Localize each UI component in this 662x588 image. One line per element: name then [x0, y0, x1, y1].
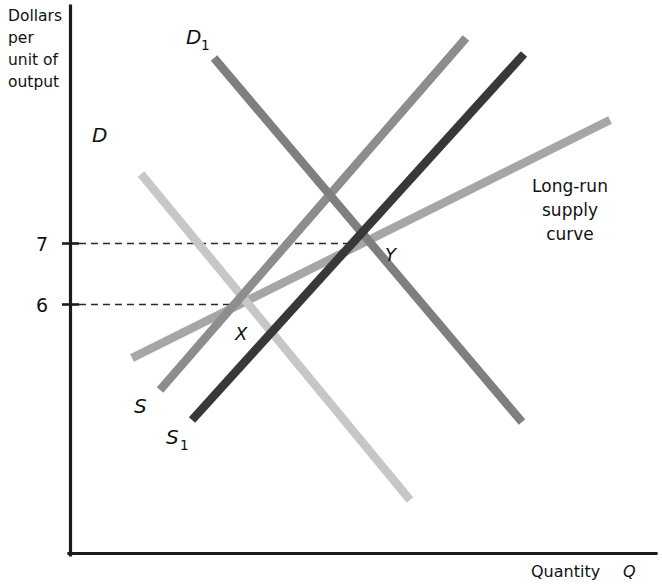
- y-tick-label-6: 6: [36, 294, 48, 316]
- curve-label-s1-subscript: 1: [180, 437, 189, 453]
- point-label-x: X: [234, 323, 248, 344]
- x-axis-title-symbol: Q: [623, 562, 636, 581]
- curve-label-s: S: [134, 394, 147, 418]
- y-axis-caption-line-2: per: [8, 29, 34, 47]
- annotation-line-2: supply: [542, 200, 598, 220]
- curve-label-d1-subscript: 1: [201, 37, 210, 53]
- y-axis-caption-line-4: output: [8, 73, 59, 91]
- curve-label-s1-base: S: [166, 425, 179, 449]
- chart-background: [0, 0, 662, 588]
- supply-demand-chart: Dollars per unit of output 7 6 D D 1 S S…: [0, 0, 662, 588]
- curve-label-d1-base: D: [186, 25, 201, 49]
- y-axis-caption-line-3: unit of: [8, 51, 58, 69]
- chart-container: Dollars per unit of output 7 6 D D 1 S S…: [0, 0, 662, 588]
- annotation-line-3: curve: [546, 224, 594, 244]
- x-axis-title-text: Quantity: [531, 562, 600, 581]
- y-axis-caption-line-1: Dollars: [8, 7, 62, 25]
- annotation-line-1: Long-run: [532, 176, 608, 196]
- curve-label-d: D: [92, 123, 107, 147]
- y-tick-label-7: 7: [36, 233, 48, 255]
